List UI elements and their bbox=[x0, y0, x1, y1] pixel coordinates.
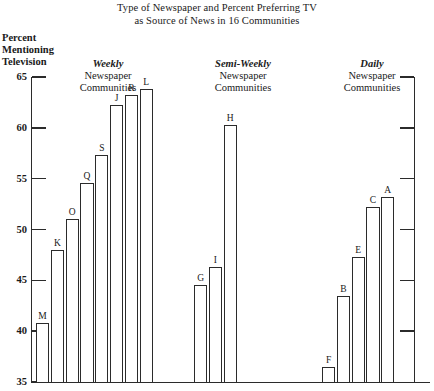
y-axis-label-50: 50 bbox=[0, 225, 27, 235]
y-axis-label-55: 55 bbox=[0, 174, 27, 184]
bar-E[interactable] bbox=[352, 257, 365, 382]
bar-A[interactable] bbox=[381, 197, 394, 382]
group-header-line2-daily: Newspaper bbox=[302, 70, 434, 82]
y-axis-label-65: 65 bbox=[0, 72, 27, 82]
bar-G[interactable] bbox=[194, 285, 207, 382]
bar-H[interactable] bbox=[224, 125, 237, 382]
bar-J[interactable] bbox=[110, 105, 123, 382]
bar-label-A: A bbox=[375, 186, 400, 196]
group-header-weekly: WeeklyNewspaperCommunities bbox=[38, 58, 178, 95]
bar-L[interactable] bbox=[140, 89, 153, 382]
y-tick-right-45 bbox=[400, 280, 414, 281]
y-tick-right-50 bbox=[400, 229, 414, 230]
group-header-line2-semi-weekly: Newspaper bbox=[173, 70, 313, 82]
bar-O[interactable] bbox=[66, 219, 79, 382]
bar-F[interactable] bbox=[322, 367, 335, 382]
y-tick-50 bbox=[32, 229, 46, 230]
group-header-line3-semi-weekly: Communities bbox=[173, 82, 313, 94]
bar-label-H: H bbox=[218, 114, 243, 124]
group-header-emphasis-semi-weekly: Semi-Weekly bbox=[173, 58, 313, 70]
bar-K[interactable] bbox=[51, 250, 64, 382]
group-header-line3-daily: Communities bbox=[302, 82, 434, 94]
bar-R[interactable] bbox=[125, 95, 138, 382]
bar-M[interactable] bbox=[36, 323, 49, 382]
group-header-emphasis-weekly: Weekly bbox=[38, 58, 178, 70]
y-tick-right-60 bbox=[400, 127, 414, 128]
y-tick-60 bbox=[32, 127, 46, 128]
bar-C[interactable] bbox=[366, 207, 379, 382]
y-tick-45 bbox=[32, 280, 46, 281]
y-axis-label-35: 35 bbox=[0, 377, 27, 387]
group-header-daily: DailyNewspaperCommunities bbox=[302, 58, 434, 95]
bar-S[interactable] bbox=[95, 155, 108, 382]
right-axis-line bbox=[414, 77, 415, 383]
y-tick-55 bbox=[32, 178, 46, 179]
bar-Q[interactable] bbox=[80, 183, 93, 382]
chart-page: Type of Newspaper and Percent Preferring… bbox=[0, 0, 434, 391]
y-axis-label-40: 40 bbox=[0, 326, 27, 336]
y-axis-label-45: 45 bbox=[0, 275, 27, 285]
y-tick-right-40 bbox=[400, 330, 414, 331]
group-header-semi-weekly: Semi-WeeklyNewspaperCommunities bbox=[173, 58, 313, 95]
y-tick-right-55 bbox=[400, 178, 414, 179]
plot-area: 35404550556065 WeeklyNewspaperCommunitie… bbox=[0, 0, 434, 391]
y-axis-label-60: 60 bbox=[0, 123, 27, 133]
group-header-emphasis-daily: Daily bbox=[302, 58, 434, 70]
bar-I[interactable] bbox=[209, 267, 222, 382]
bar-B[interactable] bbox=[337, 296, 350, 382]
bar-label-L: L bbox=[134, 78, 159, 88]
